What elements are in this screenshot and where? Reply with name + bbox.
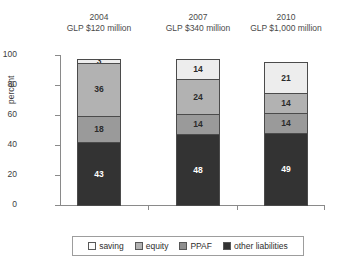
- column-header-glp: GLP $120 million: [44, 23, 154, 34]
- legend-swatch-icon: [179, 242, 187, 250]
- bar-2007[interactable]: 14 24 14 48: [176, 59, 220, 205]
- y-tick-80: [55, 85, 60, 86]
- bar-segment-ppaf[interactable]: 14: [176, 114, 220, 135]
- bar-segment-saving[interactable]: 14: [176, 59, 220, 80]
- y-tick-40: [55, 145, 60, 146]
- plot-area: 100 80 60 40 20 0 3 36 18 43: [60, 55, 325, 205]
- y-tick-0: [55, 205, 60, 206]
- column-header-glp: GLP $1,000 million: [231, 23, 341, 34]
- bar-segment-equity[interactable]: 36: [77, 63, 121, 117]
- bar-segment-value: 48: [193, 166, 202, 175]
- y-tick-label-80: 80: [0, 79, 17, 89]
- legend-label: other liabilities: [234, 241, 288, 251]
- bar-segment-value: 18: [94, 125, 103, 134]
- column-header-year: 2010: [231, 12, 341, 23]
- legend-item-other-liabilities[interactable]: other liabilities: [223, 241, 288, 251]
- y-tick-label-0: 0: [0, 199, 17, 209]
- bar-segment-other-liabilities[interactable]: 43: [77, 142, 121, 207]
- y-tick-label-20: 20: [0, 169, 17, 179]
- bar-segment-value: 21: [281, 74, 290, 83]
- bar-segment-other-liabilities[interactable]: 48: [176, 134, 220, 206]
- bar-segment-equity[interactable]: 24: [176, 79, 220, 115]
- column-header-2004: 2004 GLP $120 million: [44, 12, 154, 34]
- bar-segment-value: 43: [94, 170, 103, 179]
- bar-segment-value: 14: [281, 119, 290, 128]
- bar-segment-value: 14: [281, 99, 290, 108]
- bar-segment-value: 49: [281, 165, 290, 174]
- x-tick-separator-1: [148, 205, 149, 210]
- y-tick-label-60: 60: [0, 109, 17, 119]
- legend-swatch-icon: [223, 242, 231, 250]
- bar-segment-value: 36: [94, 85, 103, 94]
- legend-item-equity[interactable]: equity: [135, 241, 169, 251]
- bar-segment-equity[interactable]: 14: [264, 93, 308, 114]
- y-tick-60: [55, 115, 60, 116]
- legend-item-ppaf[interactable]: PPAF: [179, 241, 212, 251]
- bar-segment-saving[interactable]: 21: [264, 62, 308, 94]
- legend-swatch-icon: [135, 242, 143, 250]
- y-tick-20: [55, 175, 60, 176]
- bar-segment-value: 14: [193, 120, 202, 129]
- y-tick-100: [55, 55, 60, 56]
- x-tick-separator-2: [237, 205, 238, 210]
- bar-2004[interactable]: 3 36 18 43: [77, 59, 121, 205]
- stacked-bar-chart: 2004 GLP $120 million 2007 GLP $340 mill…: [0, 0, 350, 270]
- column-header-2010: 2010 GLP $1,000 million: [231, 12, 341, 34]
- legend-label: PPAF: [190, 241, 212, 251]
- y-tick-label-100: 100: [0, 49, 17, 59]
- legend-label: equity: [146, 241, 169, 251]
- legend-swatch-icon: [88, 242, 96, 250]
- bar-segment-value: 14: [193, 65, 202, 74]
- x-tick-separator-3: [324, 205, 325, 210]
- chart-legend: saving equity PPAF other liabilities: [72, 236, 304, 256]
- legend-label: saving: [99, 241, 124, 251]
- column-header-year: 2004: [44, 12, 154, 23]
- bar-2010[interactable]: 21 14 14 49: [264, 62, 308, 205]
- y-tick-label-40: 40: [0, 139, 17, 149]
- bar-segment-value: 24: [193, 93, 202, 102]
- legend-item-saving[interactable]: saving: [88, 241, 124, 251]
- y-axis-line: [60, 55, 61, 205]
- bar-segment-ppaf[interactable]: 18: [77, 116, 121, 143]
- bar-segment-ppaf[interactable]: 14: [264, 113, 308, 134]
- bar-segment-other-liabilities[interactable]: 49: [264, 133, 308, 207]
